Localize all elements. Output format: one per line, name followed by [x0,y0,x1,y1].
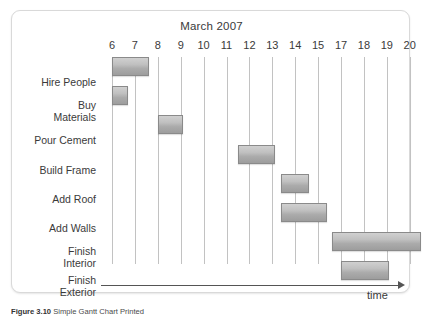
task-label-add-walls: Add Walls [20,223,96,235]
gantt-chart-card: March 2007 Hire PeopleBuy MaterialsPour … [11,10,410,293]
task-label-finish-interior: Finish Interior [20,246,96,269]
task-label-buy-materials: Buy Materials [20,100,96,123]
figure-caption: Figure 3.10 Simple Gantt Chart Printed [11,307,421,316]
time-axis-line [101,285,400,286]
x-axis-tick-labels: 678910111213141517181920 [101,39,406,55]
gantt-plot-area: 678910111213141517181920 [101,39,406,274]
gantt-bar-add-roof[interactable] [281,174,308,193]
x-tick-label-17: 17 [335,39,347,51]
task-label-pour-cement: Pour Cement [20,135,96,147]
gridline-15 [318,57,319,264]
gantt-bar-finish-interior[interactable] [332,232,421,251]
task-label-build-frame: Build Frame [20,165,96,177]
gridline-9 [181,57,182,264]
x-tick-label-20: 20 [404,39,416,51]
x-tick-label-7: 7 [132,39,138,51]
gantt-bar-hire-people[interactable] [112,57,149,76]
gridline-11 [227,57,228,264]
task-label-add-roof: Add Roof [20,194,96,206]
gantt-bar-buy-materials[interactable] [112,86,128,105]
x-tick-label-6: 6 [109,39,115,51]
time-axis-arrow-icon [398,281,405,289]
gridline-10 [204,57,205,264]
figure-number: Figure 3.10 [11,307,51,316]
x-tick-label-18: 18 [358,39,370,51]
gantt-bar-add-walls[interactable] [281,203,327,222]
gantt-bar-build-frame[interactable] [238,145,275,164]
x-tick-label-9: 9 [178,39,184,51]
gridline-14 [295,57,296,264]
x-tick-label-13: 13 [266,39,278,51]
x-tick-label-10: 10 [197,39,209,51]
chart-title: March 2007 [12,20,411,32]
gridline-8 [158,57,159,264]
x-tick-label-8: 8 [155,39,161,51]
task-label-finish-exterior: Finish Exterior [20,275,96,298]
gantt-bar-pour-cement[interactable] [158,115,183,134]
figure-caption-text: Simple Gantt Chart Printed [53,307,144,316]
figure-container: March 2007 Hire PeopleBuy MaterialsPour … [0,0,425,320]
x-tick-label-14: 14 [289,39,301,51]
x-tick-label-11: 11 [221,39,232,51]
x-axis-label: time [367,289,388,301]
x-tick-label-12: 12 [243,39,255,51]
x-tick-label-19: 19 [381,39,393,51]
task-label-hire-people: Hire People [20,77,96,89]
gantt-bar-finish-exterior[interactable] [341,261,389,280]
x-tick-label-15: 15 [312,39,324,51]
gridline-7 [135,57,136,264]
